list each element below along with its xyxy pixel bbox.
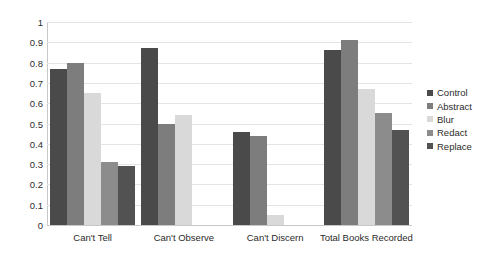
legend-item[interactable]: Blur — [427, 113, 472, 126]
legend-item-label: Abstract — [437, 101, 472, 112]
bar — [324, 50, 341, 225]
legend-item[interactable]: Replace — [427, 140, 472, 153]
legend-item[interactable]: Redact — [427, 126, 472, 139]
legend-item-label: Replace — [437, 141, 472, 152]
plot-area — [47, 22, 412, 225]
bar — [392, 130, 409, 225]
bar-group — [141, 22, 226, 225]
y-axis-tick-label: 0.8 — [5, 57, 43, 68]
bar-group — [233, 22, 318, 225]
bar — [175, 115, 192, 225]
y-axis-tick-label: 0.9 — [5, 37, 43, 48]
legend-item-label: Redact — [437, 127, 467, 138]
legend-swatch-icon — [427, 143, 433, 149]
bar — [341, 40, 358, 225]
y-axis-tick-label: 0.4 — [5, 138, 43, 149]
bar — [250, 136, 267, 225]
bar — [118, 166, 135, 225]
legend-item[interactable]: Abstract — [427, 99, 472, 112]
y-axis-tick-label: 0.3 — [5, 159, 43, 170]
y-axis-tick-labels: 00.10.20.30.40.50.60.70.80.91 — [0, 0, 43, 256]
y-axis-tick-label: 0.6 — [5, 98, 43, 109]
x-axis-category-label: Can't Tell — [73, 232, 112, 243]
bar — [50, 69, 67, 225]
bar — [375, 113, 392, 225]
x-axis-category-label: Total Books Recorded — [320, 232, 413, 243]
legend-swatch-icon — [427, 130, 433, 136]
gridline — [47, 225, 412, 226]
legend-swatch-icon — [427, 90, 433, 96]
legend-item-label: Blur — [437, 114, 454, 125]
bar — [233, 132, 250, 225]
y-axis-tick-label: 1 — [5, 17, 43, 28]
y-axis-tick-label: 0 — [5, 220, 43, 231]
x-axis-category-label: Can't Discern — [247, 232, 304, 243]
bar-group — [324, 22, 409, 225]
y-axis-tick-label: 0.1 — [5, 199, 43, 210]
bar — [67, 63, 84, 225]
bar — [84, 93, 101, 225]
bar — [358, 89, 375, 225]
y-axis-tick-label: 0.7 — [5, 77, 43, 88]
bar — [141, 48, 158, 225]
y-axis-tick-label: 0.2 — [5, 179, 43, 190]
bar — [267, 215, 284, 225]
legend-item-label: Control — [437, 87, 468, 98]
y-axis-tick-label: 0.5 — [5, 118, 43, 129]
chart-legend: ControlAbstractBlurRedactReplace — [427, 86, 472, 153]
bar-group — [50, 22, 135, 225]
x-axis-category-label: Can't Observe — [154, 232, 214, 243]
bar-chart: 00.10.20.30.40.50.60.70.80.91 Can't Tell… — [0, 0, 495, 256]
legend-item[interactable]: Control — [427, 86, 472, 99]
bar — [101, 162, 118, 225]
bar — [158, 124, 175, 226]
legend-swatch-icon — [427, 103, 433, 109]
legend-swatch-icon — [427, 116, 433, 122]
